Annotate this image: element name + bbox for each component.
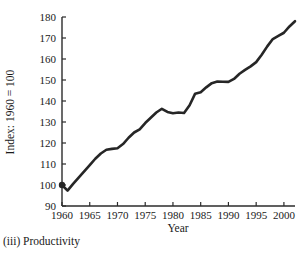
x-axis-tick-label: 2000: [273, 209, 296, 221]
y-axis-tick-label: 170: [40, 32, 57, 44]
y-axis-tick-label: 140: [40, 95, 57, 107]
productivity-line-chart: 90100110120130140150160170180 1960196519…: [0, 0, 305, 254]
y-axis-tick-label: 180: [40, 11, 57, 23]
x-axis-tick-label: 1965: [79, 209, 102, 221]
figure-caption: (iii) Productivity: [3, 235, 80, 247]
x-axis-tick-label: 1975: [134, 209, 157, 221]
x-axis-tick-label: 1990: [217, 209, 240, 221]
y-axis-tick-label: 120: [40, 137, 57, 149]
x-axis-tick-label: 1960: [51, 209, 74, 221]
y-axis-tick-label: 110: [40, 158, 57, 170]
y-axis-tick-label: 130: [40, 116, 57, 128]
y-axis-tick-label: 150: [40, 74, 57, 86]
y-axis-title: Index: 1960 = 100: [4, 69, 16, 154]
figure-productivity: 90100110120130140150160170180 1960196519…: [0, 0, 305, 254]
x-axis-tick-label: 1980: [162, 209, 185, 221]
y-axis-tick-label: 160: [40, 53, 57, 65]
x-axis-tick-label: 1985: [190, 209, 213, 221]
x-axis-title: Year: [167, 222, 188, 234]
y-axis-tick-label: 100: [40, 179, 57, 191]
x-axis-tick-label: 1995: [245, 209, 268, 221]
x-axis-tick-label: 1970: [106, 209, 129, 221]
series-start-marker: [59, 182, 65, 188]
